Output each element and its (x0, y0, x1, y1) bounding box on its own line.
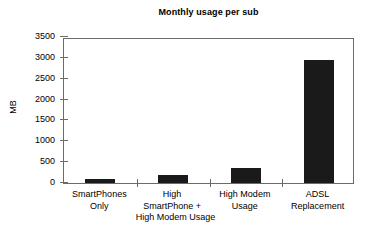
bar (231, 168, 261, 183)
y-tick-label: 0 (50, 177, 55, 187)
x-tick-mark (210, 179, 211, 187)
x-category-label-line: SmartPhones (63, 189, 136, 201)
x-category-label-line: High Modem Usage (136, 212, 209, 224)
x-tick-mark (137, 179, 138, 187)
x-category-label-line: High Modem (209, 189, 282, 201)
bar (85, 179, 115, 183)
y-tick-label: 3500 (35, 31, 55, 41)
y-tick-label: 1500 (35, 114, 55, 124)
y-tick-mark (60, 99, 68, 100)
x-category-label-line: SmartPhone + (136, 201, 209, 213)
y-tick-mark (60, 78, 68, 79)
x-category-label: ADSLReplacement (281, 189, 354, 212)
x-category-label-line: Only (63, 201, 136, 213)
x-category-label-line: High (136, 189, 209, 201)
y-tick-mark (60, 161, 68, 162)
y-tick-mark (60, 140, 68, 141)
y-tick-label: 2500 (35, 73, 55, 83)
y-tick-mark (60, 57, 68, 58)
x-category-label-line: ADSL (281, 189, 354, 201)
chart-title: Monthly usage per sub (63, 7, 354, 17)
plot-area: 0500100015002000250030003500 (63, 38, 354, 184)
y-tick-label: 3000 (35, 52, 55, 62)
x-category-label: High ModemUsage (209, 189, 282, 212)
x-tick-mark (282, 179, 283, 187)
bar (158, 175, 188, 183)
x-category-label: HighSmartPhone +High Modem Usage (136, 189, 209, 224)
bar (304, 60, 334, 183)
y-tick-mark (60, 36, 68, 37)
y-tick-label: 500 (40, 156, 55, 166)
y-axis-title: MB (8, 87, 18, 127)
x-category-label-line: Usage (209, 201, 282, 213)
x-category-label-line: Replacement (281, 201, 354, 213)
y-tick-label: 1000 (35, 135, 55, 145)
y-tick-label: 2000 (35, 94, 55, 104)
y-tick-mark (60, 119, 68, 120)
x-category-label: SmartPhonesOnly (63, 189, 136, 212)
bar-chart-figure: Monthly usage per sub MB 050010001500200… (0, 0, 372, 244)
y-tick-mark (60, 182, 68, 183)
